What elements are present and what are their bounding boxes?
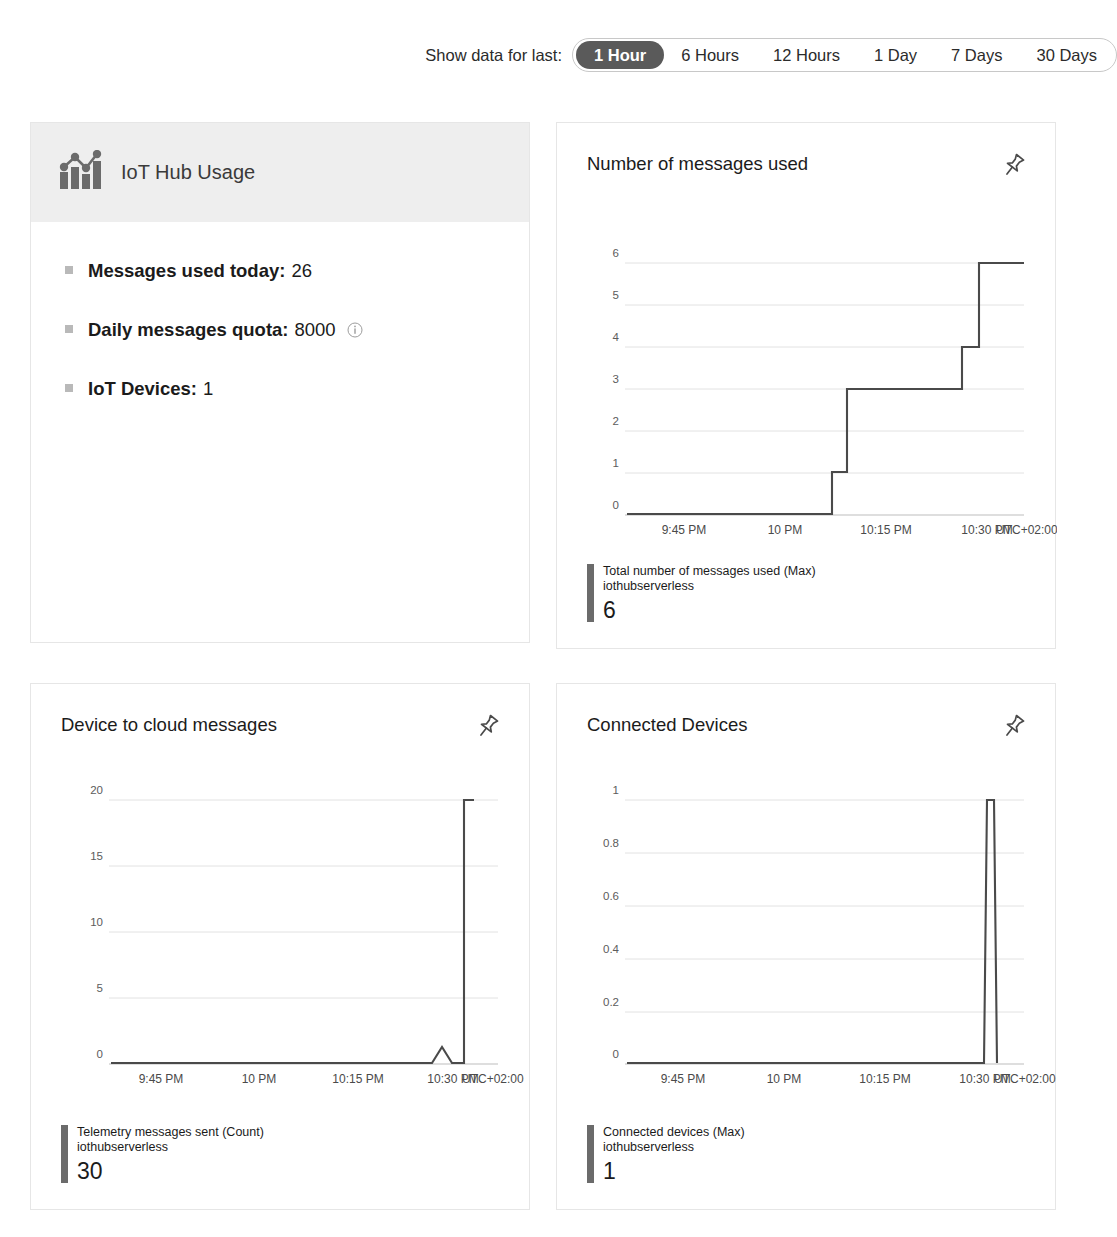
chart-header: Device to cloud messages bbox=[31, 684, 529, 742]
svg-text:15: 15 bbox=[90, 850, 103, 862]
svg-text:10:15 PM: 10:15 PM bbox=[860, 523, 911, 537]
chart-plot-area: 6 5 4 3 2 1 0 9:45 PM 10 PM 10:15 PM 10:… bbox=[557, 243, 1055, 543]
legend-resource-name: iothubserverless bbox=[603, 579, 816, 595]
usage-item-value: 1 bbox=[203, 378, 213, 400]
chart-title: Connected Devices bbox=[587, 714, 747, 736]
dashboard-grid: IoT Hub Usage Messages used today: 26 Da… bbox=[30, 122, 1086, 1210]
pin-icon[interactable] bbox=[999, 151, 1029, 181]
svg-text:10: 10 bbox=[90, 916, 103, 928]
usage-metrics-list: Messages used today: 26 Daily messages q… bbox=[31, 222, 529, 400]
svg-text:0: 0 bbox=[97, 1048, 103, 1060]
legend-metric-name: Connected devices (Max) bbox=[603, 1125, 745, 1141]
bullet-icon bbox=[65, 384, 73, 392]
chart-card-connected-devices: Connected Devices bbox=[556, 683, 1056, 1210]
svg-text:10 PM: 10 PM bbox=[768, 523, 803, 537]
svg-text:5: 5 bbox=[97, 982, 103, 994]
legend-resource-name: iothubserverless bbox=[77, 1140, 264, 1156]
svg-text:5: 5 bbox=[613, 289, 619, 301]
usage-item-label: IoT Devices: bbox=[88, 378, 197, 400]
svg-text:3: 3 bbox=[613, 373, 619, 385]
svg-text:UTC+02:00: UTC+02:00 bbox=[462, 1072, 524, 1086]
chart-legend: Telemetry messages sent (Count) iothubse… bbox=[61, 1125, 264, 1183]
svg-text:10 PM: 10 PM bbox=[767, 1072, 802, 1086]
time-range-label: Show data for last: bbox=[425, 46, 562, 65]
info-icon[interactable] bbox=[347, 321, 363, 337]
chart-title: Device to cloud messages bbox=[61, 714, 277, 736]
bullet-icon bbox=[65, 266, 73, 274]
chart-header: Number of messages used bbox=[557, 123, 1055, 181]
chart-series-line bbox=[627, 800, 997, 1063]
usage-item-label: Messages used today: bbox=[88, 260, 285, 282]
usage-item-label: Daily messages quota: bbox=[88, 319, 289, 341]
legend-color-swatch bbox=[587, 564, 594, 622]
time-range-option-1-hour[interactable]: 1 Hour bbox=[576, 41, 664, 69]
svg-text:1: 1 bbox=[613, 457, 619, 469]
legend-metric-name: Total number of messages used (Max) bbox=[603, 564, 816, 580]
pin-icon[interactable] bbox=[999, 712, 1029, 742]
svg-text:0.8: 0.8 bbox=[603, 837, 619, 849]
svg-text:9:45 PM: 9:45 PM bbox=[139, 1072, 184, 1086]
svg-text:UTC+02:00: UTC+02:00 bbox=[994, 1072, 1056, 1086]
usage-item-messages-used-today: Messages used today: 26 bbox=[65, 260, 529, 282]
usage-card-header: IoT Hub Usage bbox=[31, 123, 529, 222]
legend-metric-name: Telemetry messages sent (Count) bbox=[77, 1125, 264, 1141]
svg-text:9:45 PM: 9:45 PM bbox=[662, 523, 707, 537]
legend-resource-name: iothubserverless bbox=[603, 1140, 745, 1156]
svg-text:6: 6 bbox=[613, 247, 619, 259]
time-range-option-12-hours[interactable]: 12 Hours bbox=[756, 41, 857, 69]
usage-item-iot-devices: IoT Devices: 1 bbox=[65, 378, 529, 400]
bullet-icon bbox=[65, 325, 73, 333]
legend-value: 30 bbox=[77, 1160, 264, 1183]
pin-icon[interactable] bbox=[473, 712, 503, 742]
chart-plot-area: 20 15 10 5 0 9:45 PM 10 PM 10:15 PM 10:3… bbox=[31, 772, 529, 1092]
chart-legend: Total number of messages used (Max) ioth… bbox=[587, 564, 816, 622]
chart-card-number-of-messages-used: Number of messages used bbox=[556, 122, 1056, 649]
svg-text:9:45 PM: 9:45 PM bbox=[661, 1072, 706, 1086]
svg-text:20: 20 bbox=[90, 784, 103, 796]
usage-card-title: IoT Hub Usage bbox=[121, 161, 255, 184]
svg-text:0: 0 bbox=[613, 1048, 619, 1060]
svg-text:0.2: 0.2 bbox=[603, 996, 619, 1008]
dashboard-row-1: IoT Hub Usage Messages used today: 26 Da… bbox=[30, 122, 1086, 649]
svg-text:10:15 PM: 10:15 PM bbox=[332, 1072, 383, 1086]
usage-item-daily-messages-quota: Daily messages quota: 8000 bbox=[65, 319, 529, 341]
legend-value: 1 bbox=[603, 1160, 745, 1183]
chart-card-device-to-cloud-messages: Device to cloud messages bbox=[30, 683, 530, 1210]
chart-plot-area: 1 0.8 0.6 0.4 0.2 0 9:45 PM 10 PM 10:15 … bbox=[557, 772, 1055, 1092]
time-range-selector: Show data for last: 1 Hour 6 Hours 12 Ho… bbox=[425, 38, 1117, 72]
time-range-option-1-day[interactable]: 1 Day bbox=[857, 41, 934, 69]
iot-hub-usage-card: IoT Hub Usage Messages used today: 26 Da… bbox=[30, 122, 530, 643]
svg-text:4: 4 bbox=[613, 331, 620, 343]
svg-text:0.4: 0.4 bbox=[603, 943, 620, 955]
chart-legend: Connected devices (Max) iothubserverless… bbox=[587, 1125, 745, 1183]
svg-text:UTC+02:00: UTC+02:00 bbox=[996, 523, 1057, 537]
legend-color-swatch bbox=[61, 1125, 68, 1183]
svg-text:0.6: 0.6 bbox=[603, 890, 619, 902]
svg-text:10:15 PM: 10:15 PM bbox=[859, 1072, 910, 1086]
time-range-option-7-days[interactable]: 7 Days bbox=[934, 41, 1019, 69]
time-range-option-6-hours[interactable]: 6 Hours bbox=[664, 41, 756, 69]
time-range-option-30-days[interactable]: 30 Days bbox=[1019, 41, 1114, 69]
usage-item-value: 8000 bbox=[295, 319, 336, 341]
svg-text:0: 0 bbox=[613, 499, 619, 511]
bar-chart-icon bbox=[57, 150, 103, 196]
time-range-pill-group: 1 Hour 6 Hours 12 Hours 1 Day 7 Days 30 … bbox=[572, 38, 1117, 72]
chart-header: Connected Devices bbox=[557, 684, 1055, 742]
chart-title: Number of messages used bbox=[587, 153, 808, 175]
legend-value: 6 bbox=[603, 599, 816, 622]
dashboard-row-2: Device to cloud messages bbox=[30, 683, 1086, 1210]
legend-color-swatch bbox=[587, 1125, 594, 1183]
svg-text:10 PM: 10 PM bbox=[242, 1072, 277, 1086]
svg-text:1: 1 bbox=[613, 784, 619, 796]
usage-item-value: 26 bbox=[291, 260, 312, 282]
svg-text:2: 2 bbox=[613, 415, 619, 427]
